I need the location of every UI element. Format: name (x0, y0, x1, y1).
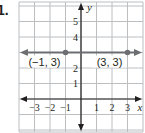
data-point-label: (−1, 3) (28, 56, 60, 68)
series-arrow-left (20, 49, 28, 56)
data-point (63, 50, 69, 56)
data-point (125, 50, 131, 56)
x-axis-label: x (137, 101, 143, 113)
y-axis-label: y (86, 1, 92, 13)
series-arrow-right (134, 49, 142, 56)
data-point-label: (3, 3) (97, 56, 123, 68)
x-tick-label: 2 (110, 102, 115, 113)
x-tick-label: 3 (125, 102, 130, 113)
x-tick-label: −3 (29, 102, 40, 113)
x-tick-label: −1 (60, 102, 71, 113)
y-tick-label: 1 (73, 78, 78, 89)
y-tick-label: 4 (73, 32, 78, 43)
x-axis-arrow-left (20, 96, 27, 102)
x-tick-label: −2 (45, 102, 56, 113)
y-tick-label: 5 (73, 16, 78, 27)
x-tick-label: 1 (94, 102, 99, 113)
y-tick-label: 2 (73, 63, 78, 74)
coordinate-plane: xy −3−2−11231245 (−1, 3)(3, 3) (0, 0, 145, 133)
